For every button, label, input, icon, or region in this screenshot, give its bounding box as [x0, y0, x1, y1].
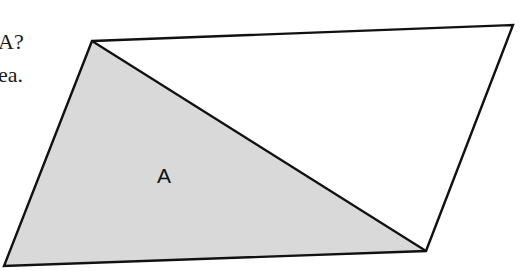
parallelogram-diagram: A: [0, 0, 524, 271]
region-label-a: A: [157, 164, 171, 187]
shaded-triangle-a: [4, 41, 426, 266]
